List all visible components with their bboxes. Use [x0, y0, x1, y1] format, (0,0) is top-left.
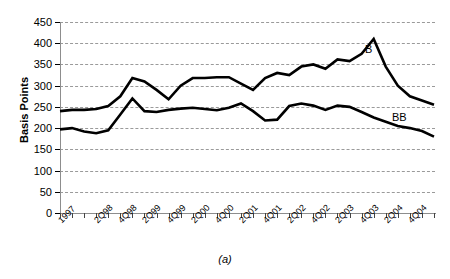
y-tick-label: 250 [10, 101, 52, 113]
x-tick-mark [434, 213, 435, 218]
x-tick-mark [84, 213, 85, 218]
y-tick-label: 300 [10, 80, 52, 92]
chart-figure: Basis Points 450400350300250200150100500… [0, 0, 450, 279]
gridline [60, 128, 435, 129]
gridline [60, 86, 435, 87]
y-tick-label: 450 [10, 16, 52, 28]
gridline [60, 171, 435, 172]
y-tick-label: 200 [10, 122, 52, 134]
series-label-b: B [365, 43, 372, 55]
y-tick-label: 100 [10, 165, 52, 177]
plot-area [60, 22, 435, 213]
y-axis-line [60, 22, 61, 214]
gridline [60, 22, 435, 23]
gridline [60, 149, 435, 150]
y-tick-label: 150 [10, 143, 52, 155]
figure-caption: (a) [0, 253, 450, 265]
y-tick-label: 50 [10, 186, 52, 198]
y-tick-label: 350 [10, 58, 52, 70]
series-label-bb: BB [392, 111, 407, 123]
gridline [60, 43, 435, 44]
gridline [60, 107, 435, 108]
y-tick-label: 400 [10, 37, 52, 49]
y-tick-label: 0 [10, 207, 52, 219]
gridline [60, 64, 435, 65]
gridline [60, 192, 435, 193]
